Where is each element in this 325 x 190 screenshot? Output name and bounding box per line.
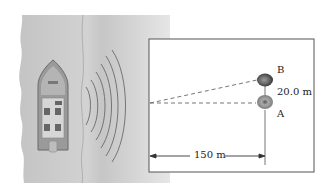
rock-b <box>257 74 273 87</box>
inset-box <box>149 39 314 172</box>
rock-a <box>257 95 273 109</box>
label-rock-a: A <box>277 108 284 119</box>
label-distance: 150 m <box>194 149 226 160</box>
boat <box>38 60 68 152</box>
label-rock-b: B <box>277 64 284 75</box>
label-separation: 20.0 m <box>277 86 312 97</box>
